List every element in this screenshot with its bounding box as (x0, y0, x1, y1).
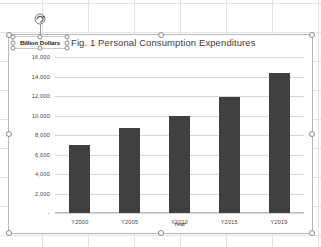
bar-series: Y2000Y2005Y2010Y2015Y2019 (55, 57, 304, 213)
chart-handle-w[interactable] (6, 131, 12, 137)
textbox-handle-sw[interactable] (11, 46, 16, 51)
y-axis-tick-label: 12,000 (32, 93, 50, 99)
x-axis-title: Year (55, 221, 304, 227)
y-axis-tick-label: 2,000 (35, 191, 50, 197)
y-axis-tick-label: 8,000 (35, 132, 50, 138)
y-axis-tick-label: 4,000 (35, 171, 50, 177)
plot-area: 16,00014,00012,00010,0008,0006,0004,0002… (55, 57, 304, 213)
bar[interactable] (169, 116, 190, 213)
textbox-handle-s[interactable] (38, 46, 43, 51)
bar-slot: Y2015 (204, 57, 254, 213)
textbox-handle-n[interactable] (38, 35, 43, 40)
chart-handle-s[interactable] (158, 230, 164, 236)
y-axis-tick-label: 6,000 (35, 152, 50, 158)
bar[interactable] (119, 128, 140, 213)
y-axis-tick-label: 16,000 (32, 54, 50, 60)
bar[interactable] (219, 97, 240, 213)
y-axis-tick-label: 14,000 (32, 74, 50, 80)
billion-dollars-textbox[interactable]: Billion Dollars (12, 36, 68, 49)
chart-title: Fig. 1 Personal Consumption Expenditures (71, 37, 256, 48)
textbox-handle-se[interactable] (65, 46, 70, 51)
bar-slot: Y2010 (155, 57, 205, 213)
bar[interactable] (69, 145, 90, 213)
gridline: - (55, 213, 304, 214)
chart-handle-se[interactable] (309, 230, 315, 236)
chart-handle-e[interactable] (309, 131, 315, 137)
chart-handle-sw[interactable] (6, 230, 12, 236)
bar-slot: Y2005 (105, 57, 155, 213)
screenshot-root: Fig. 1 Personal Consumption Expenditures… (0, 0, 321, 247)
chart-handle-ne[interactable] (309, 32, 315, 38)
textbox-handle-e[interactable] (65, 40, 70, 45)
chart-handle-n[interactable] (158, 32, 164, 38)
bar[interactable] (269, 73, 290, 213)
chart-plot-wrapper: Fig. 1 Personal Consumption Expenditures… (9, 35, 312, 233)
chart-object[interactable]: Fig. 1 Personal Consumption Expenditures… (8, 34, 313, 234)
rotate-handle-icon[interactable] (34, 11, 46, 23)
y-axis-tick-label: 10,000 (32, 113, 50, 119)
bar-slot: Y2019 (254, 57, 304, 213)
textbox-handle-nw[interactable] (11, 35, 16, 40)
textbox-handle-w[interactable] (11, 40, 16, 45)
y-axis-tick-label: - (48, 210, 50, 216)
bar-slot: Y2000 (55, 57, 105, 213)
textbox-handle-ne[interactable] (65, 35, 70, 40)
